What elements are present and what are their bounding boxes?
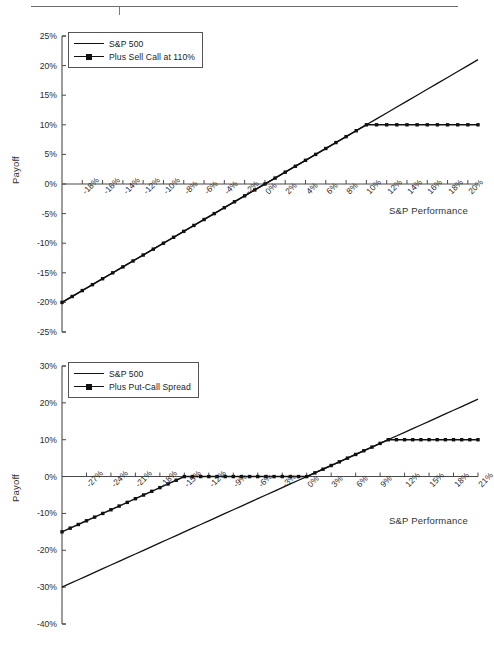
y-axis-tick-label: -25%: [8, 327, 57, 337]
y-axis-tick-label: 25%: [8, 31, 57, 41]
legend-item: S&P 500: [74, 367, 191, 380]
y-axis-tick-label: -30%: [8, 582, 57, 592]
y-axis-tick-label: -5%: [8, 209, 57, 219]
y-axis-tick-label: 20%: [8, 61, 57, 71]
legend: S&P 500 Plus Put-Call Spread: [68, 362, 199, 398]
legend-item: S&P 500: [74, 37, 195, 50]
legend-item: Plus Put-Call Spread: [74, 380, 191, 393]
y-axis-tick-label: 10%: [8, 120, 57, 130]
y-axis-tick-label: -15%: [8, 268, 57, 278]
chart-sell-call: Payoff S&P Performance S&P 500 Plus Sell…: [0, 22, 494, 342]
header-rule-tick: [119, 7, 120, 15]
header-rule: [31, 6, 458, 7]
legend-label: S&P 500: [109, 369, 143, 379]
y-axis-tick-label: -40%: [8, 619, 57, 629]
legend-key-line-icon: [74, 38, 104, 49]
y-axis-tick-label: 0%: [8, 472, 57, 482]
legend-label: Plus Sell Call at 110%: [109, 52, 195, 62]
chart-put-call-spread: Payoff S&P Performance S&P 500 Plus Put-…: [0, 352, 494, 652]
y-axis-tick-label: -20%: [8, 545, 57, 555]
y-axis-tick-label: 0%: [8, 179, 57, 189]
y-axis-tick-label: 15%: [8, 90, 57, 100]
legend-label: Plus Put-Call Spread: [109, 382, 191, 392]
legend-key-line-icon: [74, 368, 104, 379]
x-axis-title: S&P Performance: [389, 515, 468, 526]
legend-key-line-marker-icon: [74, 381, 104, 392]
y-axis-tick-label: -10%: [8, 508, 57, 518]
legend: S&P 500 Plus Sell Call at 110%: [68, 32, 203, 68]
y-axis-tick-label: 20%: [8, 398, 57, 408]
y-axis-tick-label: 30%: [8, 361, 57, 371]
y-axis-tick-label: 10%: [8, 435, 57, 445]
y-axis-tick-label: -20%: [8, 297, 57, 307]
y-axis-tick-label: 5%: [8, 149, 57, 159]
legend-label: S&P 500: [109, 39, 143, 49]
x-axis-title: S&P Performance: [389, 205, 468, 216]
y-axis-tick-label: -10%: [8, 238, 57, 248]
legend-item: Plus Sell Call at 110%: [74, 50, 195, 63]
legend-key-line-marker-icon: [74, 51, 104, 62]
